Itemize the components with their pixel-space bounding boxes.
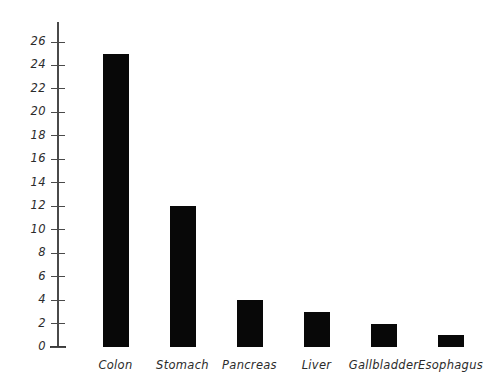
bar-liver[interactable] bbox=[304, 312, 330, 347]
bar-colon[interactable] bbox=[103, 54, 129, 347]
x-axis-label-esophagus: Esophagus bbox=[396, 359, 502, 372]
bar-esophagus[interactable] bbox=[438, 335, 464, 347]
plot-area: ColonStomachPancreasLiverGallbladderEsop… bbox=[0, 0, 502, 390]
bar-chart: 02468101214161820222426 ColonStomachPanc… bbox=[0, 0, 502, 390]
bar-pancreas[interactable] bbox=[237, 300, 263, 347]
bar-gallbladder[interactable] bbox=[371, 324, 397, 347]
bar-stomach[interactable] bbox=[170, 206, 196, 347]
